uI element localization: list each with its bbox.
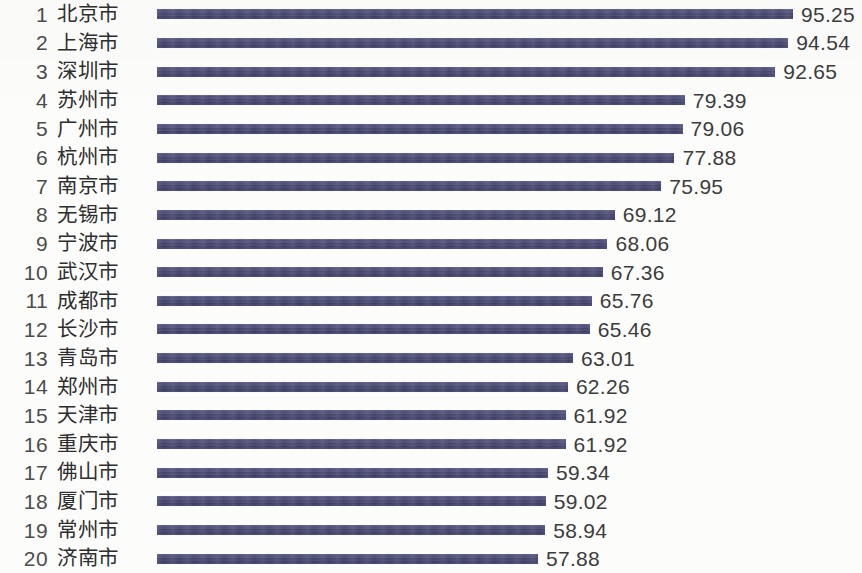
table-row: 17佛山市59.34 [0, 458, 862, 487]
table-row: 12长沙市65.46 [0, 315, 862, 344]
rank-number: 16 [0, 434, 48, 455]
table-row: 7南京市75.95 [0, 172, 862, 201]
bar-track [157, 430, 566, 459]
bar [157, 239, 607, 249]
table-row: 16重庆市61.92 [0, 430, 862, 459]
rank-number: 19 [0, 520, 48, 541]
rank-number: 5 [0, 118, 48, 139]
bar [157, 353, 573, 363]
rank-number: 4 [0, 90, 48, 111]
bar [157, 210, 615, 220]
bar-track [157, 401, 566, 430]
table-row: 9宁波市68.06 [0, 229, 862, 258]
rank-number: 15 [0, 405, 48, 426]
bar-track [157, 258, 603, 287]
city-label: 苏州市 [57, 90, 152, 111]
bar [157, 296, 592, 306]
value-label: 67.36 [611, 262, 665, 283]
rank-number: 14 [0, 376, 48, 397]
value-label: 61.92 [574, 405, 628, 426]
city-label: 常州市 [57, 520, 152, 541]
table-row: 8无锡市69.12 [0, 201, 862, 230]
bar [157, 181, 661, 191]
table-row: 14郑州市62.26 [0, 372, 862, 401]
bar [157, 124, 683, 134]
rank-number: 18 [0, 491, 48, 512]
city-label: 厦门市 [57, 491, 152, 512]
value-label: 59.34 [556, 462, 610, 483]
value-label: 62.26 [576, 376, 630, 397]
city-label: 武汉市 [57, 262, 152, 283]
bar-track [157, 344, 573, 373]
rank-number: 12 [0, 319, 48, 340]
bar [157, 324, 590, 334]
rank-number: 20 [0, 548, 48, 569]
bar [157, 468, 548, 478]
bar-track [157, 487, 546, 516]
bar-track [157, 458, 548, 487]
bar-track [157, 0, 793, 29]
table-row: 11成都市65.76 [0, 287, 862, 316]
bar-chart: 1北京市95.252上海市94.543深圳市92.654苏州市79.395广州市… [0, 0, 862, 573]
value-label: 63.01 [581, 348, 635, 369]
bar-track [157, 544, 538, 573]
city-label: 长沙市 [57, 319, 152, 340]
table-row: 4苏州市79.39 [0, 86, 862, 115]
rank-number: 1 [0, 4, 48, 25]
value-label: 58.94 [553, 520, 607, 541]
value-label: 57.88 [546, 548, 600, 569]
rank-number: 17 [0, 462, 48, 483]
bar [157, 267, 603, 277]
table-row: 5广州市79.06 [0, 115, 862, 144]
value-label: 65.76 [600, 290, 654, 311]
city-label: 杭州市 [57, 147, 152, 168]
bar-track [157, 201, 615, 230]
table-row: 19常州市58.94 [0, 516, 862, 545]
bar-track [157, 516, 545, 545]
bar [157, 439, 566, 449]
bar-track [157, 372, 568, 401]
bar [157, 410, 566, 420]
value-label: 65.46 [598, 319, 652, 340]
rank-number: 8 [0, 204, 48, 225]
bar-track [157, 287, 592, 316]
value-label: 92.65 [783, 61, 837, 82]
bar-track [157, 229, 607, 258]
city-label: 广州市 [57, 119, 152, 140]
bar [157, 525, 545, 535]
table-row: 2上海市94.54 [0, 29, 862, 58]
table-row: 15天津市61.92 [0, 401, 862, 430]
bar-track [157, 115, 683, 144]
city-label: 佛山市 [57, 462, 152, 483]
value-label: 79.39 [693, 90, 747, 111]
city-label: 南京市 [57, 176, 152, 197]
city-label: 青岛市 [57, 348, 152, 369]
bar [157, 9, 793, 19]
bar [157, 554, 538, 564]
city-label: 宁波市 [57, 233, 152, 254]
bar-track [157, 57, 775, 86]
rank-number: 3 [0, 61, 48, 82]
value-label: 75.95 [669, 176, 723, 197]
rank-number: 10 [0, 262, 48, 283]
value-label: 79.06 [691, 118, 745, 139]
city-label: 天津市 [57, 405, 152, 426]
rank-number: 7 [0, 176, 48, 197]
bar-track [157, 172, 661, 201]
table-row: 6杭州市77.88 [0, 143, 862, 172]
bar-track [157, 143, 674, 172]
value-label: 95.25 [801, 4, 855, 25]
bar [157, 382, 568, 392]
bar [157, 496, 546, 506]
table-row: 10武汉市67.36 [0, 258, 862, 287]
rank-number: 2 [0, 32, 48, 53]
city-label: 深圳市 [57, 61, 152, 82]
city-label: 上海市 [57, 33, 152, 54]
value-label: 61.92 [574, 434, 628, 455]
bar [157, 38, 788, 48]
value-label: 69.12 [623, 204, 677, 225]
city-label: 成都市 [57, 291, 152, 312]
bar [157, 95, 685, 105]
table-row: 20济南市57.88 [0, 544, 862, 573]
bar [157, 67, 775, 77]
